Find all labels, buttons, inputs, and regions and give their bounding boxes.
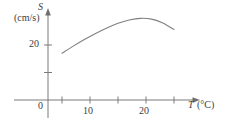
x-axis-label-unit: (°C) (197, 100, 214, 110)
y-axis-label-symbol: S (38, 2, 43, 12)
y-axis-arrow-icon (45, 8, 51, 16)
y-axis-label-unit: (cm/s) (14, 13, 40, 23)
x-tick-label-20: 20 (139, 106, 149, 116)
data-curve-s-of-t (62, 18, 174, 53)
y-tick-label-20: 20 (29, 39, 39, 49)
chart-figure: S (cm/s) 20 0 10 20 T (°C) (0, 0, 232, 131)
x-tick-label-10: 10 (83, 106, 93, 116)
origin-label: 0 (38, 101, 43, 111)
x-axis-label-symbol: T (188, 100, 194, 110)
